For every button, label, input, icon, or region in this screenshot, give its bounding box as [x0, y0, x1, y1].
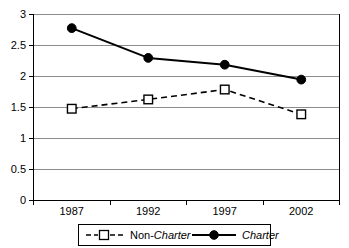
- y-tick-label-3: 3: [20, 8, 26, 20]
- x-tick-label-1997: 1997: [213, 205, 237, 217]
- legend-label-non-charter-italic: Charter: [154, 229, 192, 241]
- y-tick-label-2: 2: [20, 70, 26, 82]
- legend-item-non-charter[interactable]: Non-Charter: [86, 229, 192, 241]
- legend-label-charter: Charter: [242, 229, 280, 241]
- data-point-charter-1992: [144, 54, 153, 63]
- data-point-charter-1987: [67, 24, 76, 33]
- legend-label-non-charter-prefix: Non-: [130, 229, 154, 241]
- line-chart: 3 2.5 2 1.5 1 0.5 0 1987 1992 1997 2002: [0, 0, 349, 248]
- y-axis-ticks: [29, 15, 33, 201]
- data-point-non-charter-1997: [220, 85, 229, 94]
- legend-marker-filled-circle: [210, 231, 219, 240]
- x-tick-label-1987: 1987: [60, 205, 84, 217]
- legend-label-non-charter: Non-Charter: [130, 229, 192, 241]
- data-point-non-charter-1992: [144, 95, 153, 104]
- x-tick-label-1992: 1992: [136, 205, 160, 217]
- data-point-non-charter-1987: [67, 104, 76, 113]
- y-tick-label-0: 0: [20, 194, 26, 206]
- y-tick-label-1_5: 1.5: [11, 101, 26, 113]
- legend-marker-open-square: [100, 231, 109, 240]
- legend: Non-Charter Charter: [79, 225, 281, 246]
- chart-canvas: 3 2.5 2 1.5 1 0.5 0 1987 1992 1997 2002: [0, 0, 349, 248]
- legend-label-charter-italic: Charter: [242, 229, 280, 241]
- x-axis-tick-labels: 1987 1992 1997 2002: [60, 205, 314, 217]
- y-tick-label-2_5: 2.5: [11, 39, 26, 51]
- data-point-non-charter-2002: [297, 110, 306, 119]
- y-tick-label-1: 1: [20, 132, 26, 144]
- data-point-charter-2002: [297, 75, 306, 84]
- x-tick-label-2002: 2002: [289, 205, 313, 217]
- data-point-charter-1997: [220, 60, 229, 69]
- y-axis-tick-labels: 3 2.5 2 1.5 1 0.5 0: [11, 8, 26, 206]
- y-tick-label-0_5: 0.5: [11, 163, 26, 175]
